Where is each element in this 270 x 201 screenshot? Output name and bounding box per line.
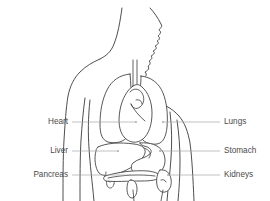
- left-inner-arm-outline: [80, 98, 85, 201]
- label-stomach: Stomach: [224, 147, 256, 155]
- leader-tip-kidneys: [167, 174, 169, 176]
- leader-tip-pancreas: [129, 174, 131, 176]
- left-kidney: [127, 180, 137, 198]
- leader-tip-lungs: [162, 121, 164, 123]
- right-kidney: [157, 170, 172, 192]
- leader-tip-heart: [135, 121, 137, 123]
- leader-tip-stomach: [159, 150, 161, 152]
- anatomy-diagram: Heart Liver Pancreas Lungs Stomach Kidne…: [0, 0, 270, 201]
- label-lungs: Lungs: [224, 118, 246, 126]
- label-kidneys: Kidneys: [224, 171, 253, 179]
- label-liver: Liver: [50, 147, 68, 155]
- head-back-outline: [100, 8, 122, 59]
- right-inner-arm-outline: [177, 120, 180, 201]
- left-torso-outline: [88, 100, 94, 201]
- leader-tip-liver: [117, 150, 119, 152]
- label-pancreas: Pancreas: [33, 171, 68, 179]
- label-heart: Heart: [48, 118, 68, 126]
